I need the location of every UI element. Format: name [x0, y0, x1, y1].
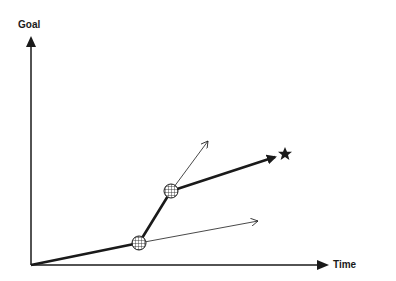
goal-progress-diagram — [0, 0, 396, 281]
y-axis-arrow-icon — [26, 36, 36, 47]
actual-path — [31, 157, 275, 265]
star-icon — [278, 147, 292, 160]
alternate-path-1 — [139, 221, 258, 243]
x-axis-arrow-icon — [317, 260, 329, 270]
alternate-path-2 — [171, 141, 208, 191]
x-axis — [31, 260, 329, 270]
milestone-node-2 — [164, 184, 178, 198]
milestone-node-1 — [132, 236, 146, 250]
y-axis — [26, 36, 36, 265]
